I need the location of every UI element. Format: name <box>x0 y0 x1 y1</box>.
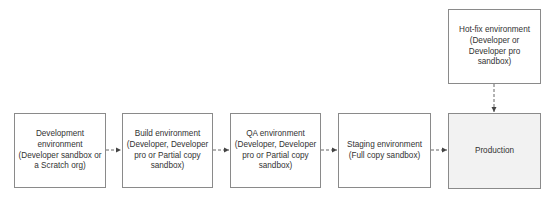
node-label: Build environment (Developer, Developer … <box>125 129 210 171</box>
node-label: QA environment (Developer, Developer pro… <box>233 129 318 171</box>
node-label: Development environment (Developer sandb… <box>17 129 103 171</box>
node-build-environment: Build environment (Developer, Developer … <box>122 113 213 188</box>
node-qa-environment: QA environment (Developer, Developer pro… <box>230 113 321 188</box>
node-hotfix-environment: Hot-fix environment (Developer or Develo… <box>448 9 541 84</box>
node-staging-environment: Staging environment (Full copy sandbox) <box>338 113 431 188</box>
node-label: Staging environment (Full copy sandbox) <box>341 140 428 161</box>
node-label: Hot-fix environment (Developer or Develo… <box>451 25 538 67</box>
node-production: Production <box>448 113 541 189</box>
node-development-environment: Development environment (Developer sandb… <box>14 113 106 188</box>
node-label: Production <box>475 146 514 157</box>
